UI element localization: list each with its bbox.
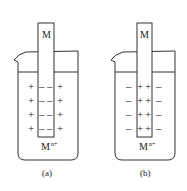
svg-text:–: – — [38, 122, 45, 134]
ion-label-a: M — [41, 141, 50, 152]
ion-superscript-a: n+ — [51, 141, 58, 147]
electrode-label-b: M — [140, 29, 149, 40]
svg-text:–: – — [38, 108, 45, 120]
svg-text:+: + — [57, 80, 63, 92]
svg-text:+: + — [145, 80, 151, 92]
caption-a: (a) — [42, 168, 52, 178]
svg-text:–: – — [46, 80, 53, 92]
svg-text:–: – — [38, 94, 45, 106]
svg-text:–: – — [46, 122, 53, 134]
svg-text:–: – — [155, 122, 162, 134]
svg-text:+: + — [137, 80, 143, 92]
svg-text:+: + — [145, 94, 151, 106]
svg-text:+: + — [137, 94, 143, 106]
electrode-label-a: M — [42, 29, 51, 40]
svg-text:–: – — [125, 108, 132, 120]
svg-text:+: + — [145, 122, 151, 134]
svg-text:–: – — [46, 94, 53, 106]
ion-label-b: M — [139, 141, 148, 152]
svg-text:+: + — [28, 108, 34, 120]
electrode-double-layer-diagram: +––+ +––+ +––+ +––+ M M n+ (a) –++– –++–… — [0, 0, 187, 191]
svg-text:+: + — [28, 122, 34, 134]
svg-text:–: – — [155, 94, 162, 106]
svg-text:+: + — [145, 108, 151, 120]
svg-text:+: + — [57, 94, 63, 106]
svg-text:+: + — [28, 94, 34, 106]
svg-text:+: + — [137, 108, 143, 120]
svg-text:–: – — [38, 80, 45, 92]
caption-b: (b) — [140, 168, 151, 178]
svg-text:–: – — [155, 108, 162, 120]
svg-text:–: – — [46, 108, 53, 120]
svg-text:–: – — [155, 80, 162, 92]
svg-text:–: – — [125, 122, 132, 134]
svg-text:+: + — [28, 80, 34, 92]
svg-text:+: + — [57, 122, 63, 134]
svg-text:+: + — [57, 108, 63, 120]
svg-text:–: – — [125, 80, 132, 92]
ion-superscript-b: n+ — [149, 141, 156, 147]
svg-text:–: – — [125, 94, 132, 106]
panel-a — [14, 23, 78, 160]
svg-text:+: + — [137, 122, 143, 134]
